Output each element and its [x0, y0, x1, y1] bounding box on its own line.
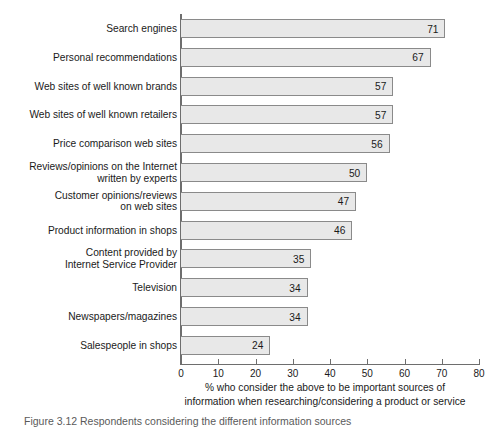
bar[interactable]: 34 [181, 307, 308, 326]
x-axis-tick [405, 359, 406, 365]
x-axis-tick-label: 30 [287, 368, 298, 380]
x-axis-title-line1: % who consider the above to be important… [150, 381, 500, 395]
x-axis-tick-label: 70 [436, 368, 447, 380]
bar-category-label: Content provided by Internet Service Pro… [0, 247, 177, 270]
bar-category-label: Price comparison web sites [0, 138, 177, 150]
bar-row: Price comparison web sites56 [0, 134, 503, 154]
bar-value-label: 56 [371, 138, 382, 149]
x-axis-tick-label: 20 [250, 368, 261, 380]
bar[interactable]: 57 [181, 105, 393, 124]
bar-row: Salespeople in shops24 [0, 336, 503, 356]
bar[interactable]: 35 [181, 249, 311, 268]
bar-category-label: Web sites of well known retailers [0, 109, 177, 121]
bar[interactable]: 47 [181, 192, 356, 211]
x-axis-tick [181, 359, 182, 365]
x-axis-tick [479, 359, 480, 365]
bar-row: Content provided by Internet Service Pro… [0, 249, 503, 269]
bar[interactable]: 34 [181, 278, 308, 297]
x-axis-tick-label: 10 [213, 368, 224, 380]
bar-category-label: Reviews/opinions on the Internet written… [0, 161, 177, 184]
bar-value-label: 35 [293, 253, 304, 264]
x-axis-tick [367, 359, 368, 365]
x-axis-tick-label: 60 [399, 368, 410, 380]
x-axis-title: % who consider the above to be important… [150, 381, 500, 408]
bar-category-label: Customer opinions/reviews on web sites [0, 190, 177, 213]
bar-row: Web sites of well known brands57 [0, 77, 503, 97]
x-axis-tick [256, 359, 257, 365]
bar[interactable]: 50 [181, 163, 367, 182]
bar-category-label: Search engines [0, 23, 177, 35]
bar[interactable]: 24 [181, 336, 270, 355]
bar-row: Reviews/opinions on the Internet written… [0, 163, 503, 183]
figure-bar-chart: 01020304050607080 Search engines71Person… [0, 0, 503, 428]
x-axis-tick-label: 80 [473, 368, 484, 380]
x-axis-tick [330, 359, 331, 365]
bar[interactable]: 67 [181, 48, 431, 67]
bar-category-label: Television [0, 282, 177, 294]
bar-row: Personal recommendations67 [0, 48, 503, 68]
bar-value-label: 34 [289, 282, 300, 293]
chart-plot-area: 01020304050607080 Search engines71Person… [0, 0, 503, 372]
bar[interactable]: 46 [181, 221, 352, 240]
bar-value-label: 47 [338, 196, 349, 207]
bar[interactable]: 56 [181, 134, 390, 153]
bar-category-label: Personal recommendations [0, 52, 177, 64]
bar-row: Customer opinions/reviews on web sites47 [0, 192, 503, 212]
x-axis-tick-label: 50 [362, 368, 373, 380]
bar[interactable]: 71 [181, 19, 445, 38]
bar[interactable]: 57 [181, 77, 393, 96]
bar-row: Television34 [0, 278, 503, 298]
bar-row: Search engines71 [0, 19, 503, 39]
bar-category-label: Product information in shops [0, 225, 177, 237]
bar-category-label: Newspapers/magazines [0, 311, 177, 323]
bar-value-label: 67 [412, 52, 423, 63]
bar-value-label: 50 [349, 167, 360, 178]
x-axis-tick [218, 359, 219, 365]
x-axis-title-line2: information when researching/considering… [150, 395, 500, 409]
bar-row: Web sites of well known retailers57 [0, 105, 503, 125]
x-axis-tick [442, 359, 443, 365]
bar-row: Product information in shops46 [0, 221, 503, 241]
x-axis-tick [293, 359, 294, 365]
bar-value-label: 57 [375, 109, 386, 120]
bar-row: Newspapers/magazines34 [0, 307, 503, 327]
x-axis-tick-label: 40 [324, 368, 335, 380]
bar-value-label: 24 [252, 340, 263, 351]
bar-value-label: 46 [334, 225, 345, 236]
x-axis-tick-label: 0 [178, 368, 184, 380]
figure-caption: Figure 3.12 Respondents considering the … [24, 415, 494, 428]
bar-category-label: Salespeople in shops [0, 340, 177, 352]
bar-value-label: 34 [289, 311, 300, 322]
bar-value-label: 71 [427, 23, 438, 34]
bar-category-label: Web sites of well known brands [0, 81, 177, 93]
bar-value-label: 57 [375, 81, 386, 92]
